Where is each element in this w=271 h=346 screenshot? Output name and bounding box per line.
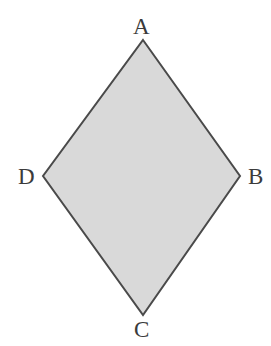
vertex-label-c: C <box>134 318 149 341</box>
vertex-label-b: B <box>248 165 263 188</box>
geometry-figure-canvas: A B C D <box>0 0 271 346</box>
vertex-label-d: D <box>18 165 35 188</box>
vertex-label-a: A <box>133 15 150 38</box>
rhombus-shape <box>43 40 240 315</box>
rhombus-diagram-svg <box>0 0 271 346</box>
